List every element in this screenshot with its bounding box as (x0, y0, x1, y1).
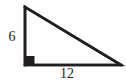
horizontal-leg-label: 12 (52, 67, 82, 81)
vertical-leg-label: 6 (2, 30, 22, 44)
figure-canvas: 6 12 (0, 0, 126, 84)
right-angle-marker-icon (26, 56, 35, 65)
